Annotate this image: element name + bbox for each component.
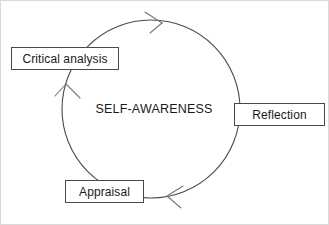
- node-critical-analysis-label: Critical analysis: [22, 52, 107, 66]
- node-reflection[interactable]: Reflection: [234, 103, 325, 126]
- arrow-top-icon: [145, 12, 162, 33]
- center-label: SELF-AWARENESS: [93, 99, 215, 119]
- node-appraisal[interactable]: Appraisal: [65, 180, 144, 203]
- arrow-bottom-icon: [167, 186, 183, 208]
- node-reflection-label: Reflection: [252, 108, 306, 122]
- diagram-canvas: Critical analysis Reflection Appraisal S…: [0, 0, 329, 225]
- node-critical-analysis[interactable]: Critical analysis: [11, 47, 119, 70]
- center-label-text: SELF-AWARENESS: [95, 102, 212, 116]
- node-appraisal-label: Appraisal: [79, 185, 130, 199]
- arrow-left-icon: [55, 84, 80, 98]
